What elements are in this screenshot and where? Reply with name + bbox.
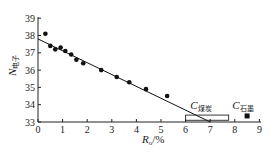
x-tick-label: 0: [36, 124, 41, 135]
x-tick-label: 4: [134, 124, 139, 135]
coal-label: C煤炭: [190, 99, 211, 113]
y-axis-title: N电子: [6, 55, 20, 77]
y-ticks: 33343536373839: [25, 13, 41, 128]
x-tick-label: 6: [183, 124, 188, 135]
x-tick-label: 3: [109, 124, 114, 135]
graphite-square-marker: [245, 113, 250, 118]
y-tick-label: 36: [25, 65, 35, 76]
x-tick-label: 2: [85, 124, 90, 135]
x-tick-label: 8: [232, 124, 237, 135]
data-point: [74, 57, 79, 62]
data-point: [43, 31, 48, 36]
x-tick-label: 9: [257, 124, 262, 135]
data-point: [165, 94, 170, 99]
data-point: [69, 52, 74, 57]
y-tick-label: 37: [25, 47, 35, 58]
data-point: [99, 68, 104, 73]
x-tick-label: 7: [208, 124, 213, 135]
data-points: [43, 31, 169, 98]
x-tick-label: 1: [60, 124, 65, 135]
axes: [38, 17, 261, 122]
graphite-label: C石墨: [232, 99, 253, 113]
data-point: [63, 49, 68, 54]
data-point: [48, 44, 53, 49]
coal-range-rectangle: [186, 115, 229, 120]
data-point: [114, 75, 119, 80]
y-tick-label: 33: [25, 117, 35, 128]
data-point: [58, 45, 63, 50]
y-tick-label: 39: [25, 13, 35, 24]
data-point: [53, 47, 58, 52]
data-point: [144, 87, 149, 92]
annotations: C煤炭C石墨: [186, 99, 254, 120]
data-point: [127, 80, 132, 85]
y-tick-label: 34: [25, 99, 35, 110]
y-tick-label: 35: [25, 82, 35, 93]
chart: 33343536373839 0123456789 C煤炭C石墨 Ro/% N电…: [0, 0, 276, 157]
x-axis-title: Ro/%: [141, 133, 164, 147]
y-tick-label: 38: [25, 30, 35, 41]
data-point: [81, 61, 86, 66]
